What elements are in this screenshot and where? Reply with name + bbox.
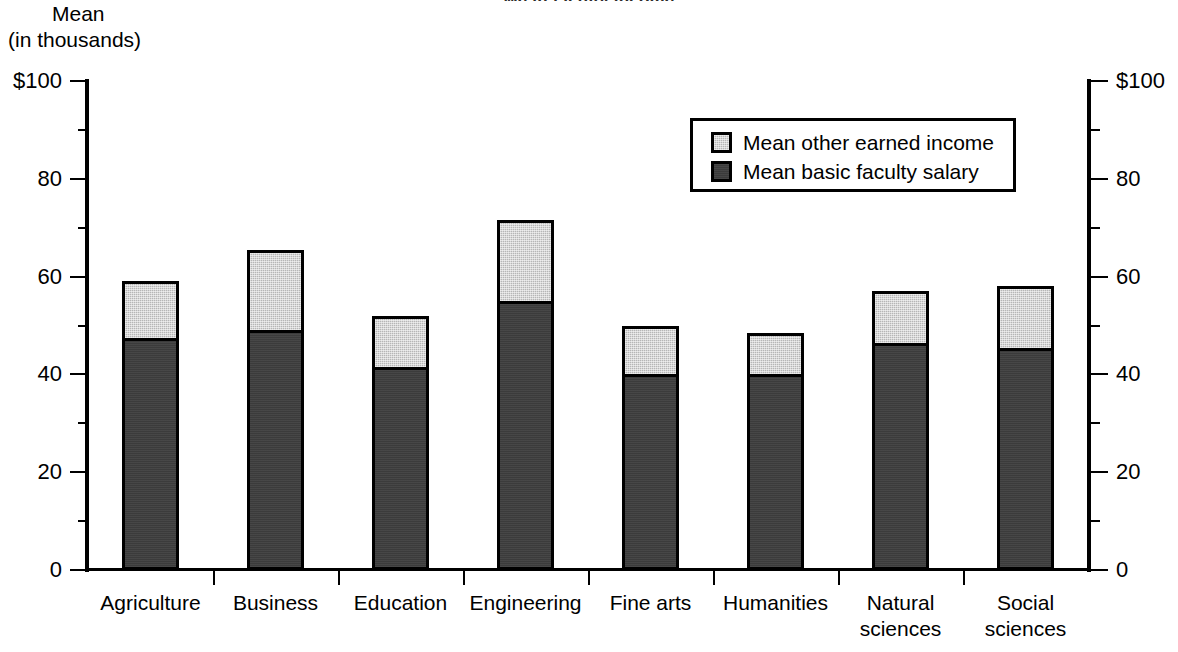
x-axis-tick bbox=[213, 571, 215, 585]
bar-social-sciences bbox=[997, 286, 1054, 570]
chart-legend: Mean other earned income Mean basic facu… bbox=[690, 118, 1016, 192]
y-axis-label-left: 0 bbox=[50, 559, 62, 581]
bar-humanities bbox=[747, 333, 804, 570]
x-axis-label-engineering: Engineering bbox=[463, 590, 588, 616]
x-axis-label-business: Business bbox=[213, 590, 338, 616]
bar-business bbox=[247, 250, 304, 570]
x-axis-label-agriculture: Agriculture bbox=[88, 590, 213, 616]
y-axis-label-left: 60 bbox=[38, 266, 62, 288]
y-axis-title-line1: Mean bbox=[52, 0, 105, 27]
y-axis-major-tick bbox=[70, 80, 88, 82]
y-axis-label-left: 20 bbox=[38, 461, 62, 483]
y-axis-label-right: 80 bbox=[1116, 168, 1140, 190]
y-axis-minor-tick bbox=[78, 325, 88, 327]
y-axis-major-tick bbox=[1090, 373, 1108, 375]
bar-engineering bbox=[497, 220, 554, 570]
y-axis-major-tick bbox=[1090, 178, 1108, 180]
bar-segment-other-earned-income bbox=[497, 220, 554, 304]
y-axis-minor-tick bbox=[1090, 227, 1100, 229]
x-axis-label-natural-sciences: Natural sciences bbox=[838, 590, 963, 642]
bar-natural-sciences bbox=[872, 291, 929, 570]
y-axis-major-tick bbox=[70, 471, 88, 473]
y-axis-label-left: $100 bbox=[13, 70, 62, 92]
x-axis-tick bbox=[963, 571, 965, 585]
bar-segment-basic-faculty-salary bbox=[622, 374, 679, 570]
y-axis-label-right: 0 bbox=[1116, 559, 1128, 581]
legend-label-other-earned-income: Mean other earned income bbox=[743, 132, 994, 153]
y-axis-major-tick bbox=[1090, 80, 1108, 82]
y-axis-major-tick bbox=[70, 373, 88, 375]
y-axis-minor-tick bbox=[78, 129, 88, 131]
x-axis-label-fine-arts: Fine arts bbox=[588, 590, 713, 616]
y-axis-minor-tick bbox=[78, 520, 88, 522]
y-axis-minor-tick bbox=[1090, 520, 1100, 522]
x-axis-label-social-sciences: Social sciences bbox=[963, 590, 1088, 642]
y-axis-minor-tick bbox=[1090, 325, 1100, 327]
bar-segment-other-earned-income bbox=[747, 333, 804, 378]
y-axis-minor-tick bbox=[78, 227, 88, 229]
legend-swatch-basic-faculty-salary bbox=[711, 161, 732, 182]
y-axis-major-tick bbox=[70, 276, 88, 278]
y-axis-major-tick bbox=[70, 569, 88, 571]
bar-segment-other-earned-income bbox=[872, 291, 929, 345]
y-axis-major-tick bbox=[1090, 276, 1108, 278]
y-axis-label-left: 80 bbox=[38, 168, 62, 190]
bar-segment-basic-faculty-salary bbox=[372, 367, 429, 570]
y-axis-label-right: 20 bbox=[1116, 461, 1140, 483]
bar-education bbox=[372, 316, 429, 570]
bar-segment-other-earned-income bbox=[372, 316, 429, 370]
y-axis-label-left: 40 bbox=[38, 363, 62, 385]
bar-segment-other-earned-income bbox=[247, 250, 304, 334]
bar-segment-basic-faculty-salary bbox=[247, 330, 304, 570]
x-axis-tick bbox=[838, 571, 840, 585]
legend-item-other-earned-income: Mean other earned income bbox=[711, 128, 1013, 157]
bar-segment-other-earned-income bbox=[122, 281, 179, 340]
x-axis-label-education: Education bbox=[338, 590, 463, 616]
y-axis-major-tick bbox=[1090, 569, 1108, 571]
y-axis-major-tick bbox=[1090, 471, 1108, 473]
bar-segment-other-earned-income bbox=[622, 326, 679, 378]
y-axis-major-tick bbox=[70, 178, 88, 180]
legend-item-basic-faculty-salary: Mean basic faculty salary bbox=[711, 157, 1013, 186]
y-axis-label-right: 60 bbox=[1116, 266, 1140, 288]
x-axis-tick bbox=[463, 571, 465, 585]
chart-title: Mean faculty income bbox=[0, 0, 1178, 1]
x-axis-tick bbox=[588, 571, 590, 585]
x-axis-tick bbox=[713, 571, 715, 585]
y-axis-title-line2: (in thousands) bbox=[8, 26, 141, 53]
y-axis-minor-tick bbox=[78, 422, 88, 424]
x-axis-tick bbox=[338, 571, 340, 585]
bar-segment-basic-faculty-salary bbox=[997, 348, 1054, 570]
x-axis-label-humanities: Humanities bbox=[713, 590, 838, 616]
bar-segment-basic-faculty-salary bbox=[497, 301, 554, 570]
bar-segment-other-earned-income bbox=[997, 286, 1054, 350]
mean-faculty-income-chart: Mean faculty income Mean (in thousands) … bbox=[0, 0, 1178, 652]
legend-swatch-other-earned-income bbox=[711, 132, 732, 153]
bar-segment-basic-faculty-salary bbox=[122, 338, 179, 570]
bar-fine-arts bbox=[622, 326, 679, 571]
y-axis-minor-tick bbox=[1090, 422, 1100, 424]
bar-segment-basic-faculty-salary bbox=[872, 343, 929, 570]
legend-label-basic-faculty-salary: Mean basic faculty salary bbox=[743, 161, 979, 182]
y-axis-label-right: $100 bbox=[1116, 70, 1165, 92]
y-axis-minor-tick bbox=[1090, 129, 1100, 131]
bar-segment-basic-faculty-salary bbox=[747, 374, 804, 570]
bar-agriculture bbox=[122, 281, 179, 570]
y-axis-label-right: 40 bbox=[1116, 363, 1140, 385]
